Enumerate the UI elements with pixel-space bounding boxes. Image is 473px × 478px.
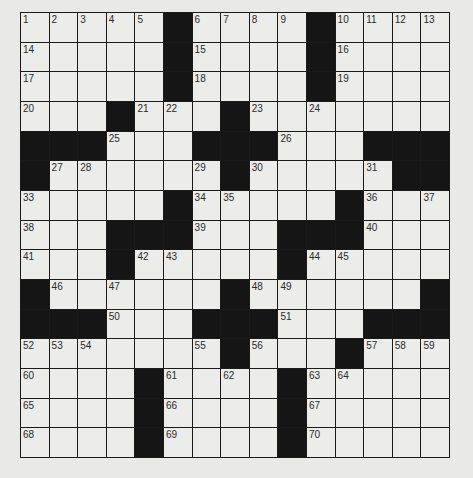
crossword-cell[interactable]: 7: [221, 13, 249, 42]
crossword-cell[interactable]: [393, 280, 421, 309]
crossword-cell[interactable]: [421, 428, 449, 457]
crossword-cell[interactable]: 38: [21, 221, 49, 250]
crossword-cell[interactable]: 52: [21, 339, 49, 368]
crossword-cell[interactable]: [393, 43, 421, 72]
crossword-cell[interactable]: [107, 399, 135, 428]
crossword-cell[interactable]: [421, 250, 449, 279]
crossword-cell[interactable]: [78, 369, 106, 398]
crossword-cell[interactable]: 6: [193, 13, 221, 42]
crossword-cell[interactable]: [221, 399, 249, 428]
crossword-cell[interactable]: [50, 72, 78, 101]
crossword-cell[interactable]: 67: [307, 399, 335, 428]
crossword-cell[interactable]: 54: [78, 339, 106, 368]
crossword-cell[interactable]: 28: [78, 161, 106, 190]
crossword-cell[interactable]: [135, 161, 163, 190]
crossword-cell[interactable]: [393, 399, 421, 428]
crossword-cell[interactable]: [364, 72, 392, 101]
crossword-cell[interactable]: [78, 221, 106, 250]
crossword-cell[interactable]: [364, 250, 392, 279]
crossword-cell[interactable]: [421, 72, 449, 101]
crossword-cell[interactable]: [364, 280, 392, 309]
crossword-cell[interactable]: [278, 191, 306, 220]
crossword-cell[interactable]: [50, 428, 78, 457]
crossword-cell[interactable]: [193, 369, 221, 398]
crossword-cell[interactable]: [221, 221, 249, 250]
crossword-cell[interactable]: 8: [250, 13, 278, 42]
crossword-cell[interactable]: [278, 161, 306, 190]
crossword-cell[interactable]: [250, 399, 278, 428]
crossword-cell[interactable]: [364, 102, 392, 131]
crossword-cell[interactable]: [307, 191, 335, 220]
crossword-cell[interactable]: 66: [164, 399, 192, 428]
crossword-cell[interactable]: [164, 132, 192, 161]
crossword-cell[interactable]: 20: [21, 102, 49, 131]
crossword-cell[interactable]: 13: [421, 13, 449, 42]
crossword-cell[interactable]: [50, 369, 78, 398]
crossword-cell[interactable]: 23: [250, 102, 278, 131]
crossword-cell[interactable]: [364, 369, 392, 398]
crossword-cell[interactable]: 19: [336, 72, 364, 101]
crossword-cell[interactable]: 15: [193, 43, 221, 72]
crossword-cell[interactable]: [193, 250, 221, 279]
crossword-cell[interactable]: [250, 250, 278, 279]
crossword-cell[interactable]: [393, 221, 421, 250]
crossword-cell[interactable]: [364, 399, 392, 428]
crossword-cell[interactable]: [107, 43, 135, 72]
crossword-cell[interactable]: 44: [307, 250, 335, 279]
crossword-cell[interactable]: [135, 191, 163, 220]
crossword-cell[interactable]: 40: [364, 221, 392, 250]
crossword-cell[interactable]: [78, 428, 106, 457]
crossword-cell[interactable]: [250, 428, 278, 457]
crossword-cell[interactable]: 29: [193, 161, 221, 190]
crossword-cell[interactable]: 48: [250, 280, 278, 309]
crossword-cell[interactable]: 26: [278, 132, 306, 161]
crossword-cell[interactable]: 5: [135, 13, 163, 42]
crossword-cell[interactable]: [421, 369, 449, 398]
crossword-cell[interactable]: [250, 72, 278, 101]
crossword-cell[interactable]: 18: [193, 72, 221, 101]
crossword-cell[interactable]: [107, 191, 135, 220]
crossword-cell[interactable]: [164, 310, 192, 339]
crossword-cell[interactable]: [107, 369, 135, 398]
crossword-cell[interactable]: [135, 339, 163, 368]
crossword-cell[interactable]: 34: [193, 191, 221, 220]
crossword-cell[interactable]: [393, 250, 421, 279]
crossword-cell[interactable]: [107, 428, 135, 457]
crossword-cell[interactable]: 21: [135, 102, 163, 131]
crossword-cell[interactable]: 64: [336, 369, 364, 398]
crossword-cell[interactable]: 33: [21, 191, 49, 220]
crossword-cell[interactable]: [135, 310, 163, 339]
crossword-cell[interactable]: [193, 399, 221, 428]
crossword-cell[interactable]: 37: [421, 191, 449, 220]
crossword-cell[interactable]: [164, 161, 192, 190]
crossword-cell[interactable]: [250, 191, 278, 220]
crossword-cell[interactable]: [50, 399, 78, 428]
crossword-cell[interactable]: 56: [250, 339, 278, 368]
crossword-cell[interactable]: 55: [193, 339, 221, 368]
crossword-cell[interactable]: [364, 43, 392, 72]
crossword-cell[interactable]: [78, 250, 106, 279]
crossword-cell[interactable]: 27: [50, 161, 78, 190]
crossword-cell[interactable]: 61: [164, 369, 192, 398]
crossword-cell[interactable]: 63: [307, 369, 335, 398]
crossword-cell[interactable]: [278, 102, 306, 131]
crossword-cell[interactable]: [50, 43, 78, 72]
crossword-cell[interactable]: [393, 428, 421, 457]
crossword-cell[interactable]: [421, 102, 449, 131]
crossword-cell[interactable]: 46: [50, 280, 78, 309]
crossword-cell[interactable]: 9: [278, 13, 306, 42]
crossword-cell[interactable]: [135, 72, 163, 101]
crossword-cell[interactable]: [336, 310, 364, 339]
crossword-cell[interactable]: [78, 399, 106, 428]
crossword-cell[interactable]: [250, 369, 278, 398]
crossword-cell[interactable]: 39: [193, 221, 221, 250]
crossword-cell[interactable]: 58: [393, 339, 421, 368]
crossword-cell[interactable]: 41: [21, 250, 49, 279]
crossword-cell[interactable]: 24: [307, 102, 335, 131]
crossword-cell[interactable]: [78, 102, 106, 131]
crossword-cell[interactable]: 45: [336, 250, 364, 279]
crossword-cell[interactable]: [307, 310, 335, 339]
crossword-cell[interactable]: 49: [278, 280, 306, 309]
crossword-cell[interactable]: 70: [307, 428, 335, 457]
crossword-cell[interactable]: 69: [164, 428, 192, 457]
